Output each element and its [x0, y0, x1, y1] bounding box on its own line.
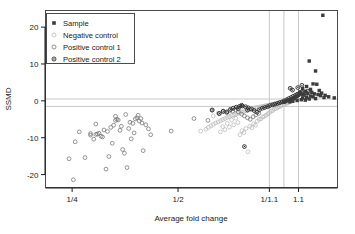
data-point	[305, 85, 308, 88]
y-tick-label: 0	[34, 97, 39, 106]
data-point	[300, 98, 303, 101]
x-axis-title: Average fold change	[154, 214, 228, 223]
data-point	[291, 100, 294, 103]
data-point	[295, 99, 298, 102]
data-point	[288, 100, 291, 103]
data-point	[314, 97, 317, 100]
y-tick-label: -20	[27, 171, 39, 180]
data-point	[315, 83, 318, 86]
legend-marker-1	[52, 21, 56, 25]
data-point	[327, 95, 330, 98]
data-point	[311, 82, 314, 85]
data-point	[322, 96, 325, 99]
x-tick-label: 1/4	[67, 195, 79, 204]
legend-label-2: Negative control	[63, 31, 118, 40]
legend-label-1: Sample	[63, 19, 89, 28]
y-axis-title: SSMD	[4, 87, 13, 110]
legend: SampleNegative controlPositive control 1…	[47, 14, 135, 65]
x-tick-label: 1.1	[293, 195, 305, 204]
data-point	[309, 88, 312, 91]
data-point	[321, 14, 324, 17]
legend-label-3: Positive control 1	[63, 43, 121, 52]
x-tick-label: 1/1.1	[260, 195, 278, 204]
data-point	[308, 97, 311, 100]
x-tick-label: 1/2	[172, 195, 184, 204]
data-point	[313, 92, 316, 95]
data-point	[314, 69, 317, 72]
chart-canvas: 1/41/21/1.11.1 20100-10-20 Average fold …	[0, 0, 355, 234]
y-tick-label: 20	[30, 23, 39, 32]
scatter-plot-figure: 1/41/21/1.11.1 20100-10-20 Average fold …	[0, 0, 355, 234]
data-point	[282, 101, 285, 104]
legend-label-4: Positive control 2	[63, 55, 121, 64]
data-point	[319, 94, 322, 97]
y-tick-label: 10	[30, 60, 39, 69]
data-point	[333, 96, 336, 99]
data-point	[308, 59, 311, 62]
data-point	[304, 98, 307, 101]
y-tick-label: -10	[27, 134, 39, 143]
